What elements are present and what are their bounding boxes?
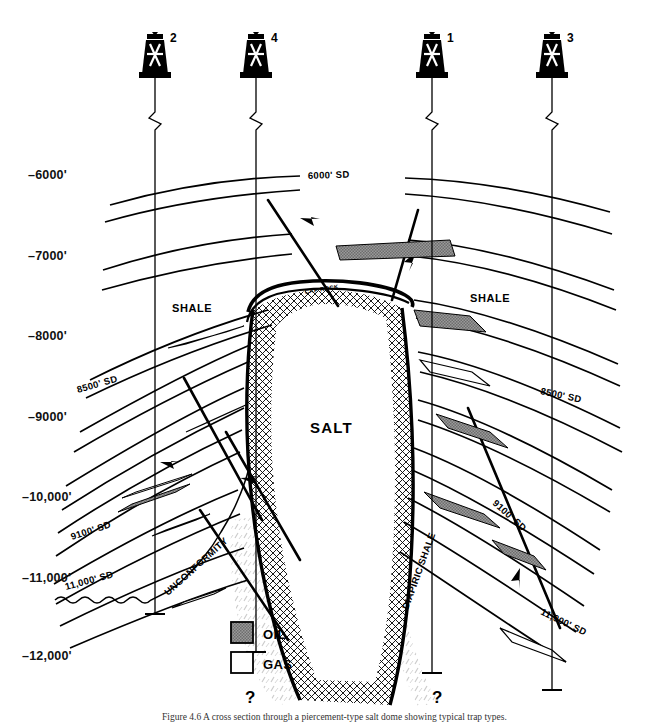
well-label-1: 1 [447,31,454,45]
label-salt: SALT [310,419,353,436]
legend-label-oil: OIL [263,627,286,642]
figure-caption: Figure 4.6 A cross section through a pie… [0,712,669,727]
legend-swatch-gas [231,652,253,673]
label-6000-sd: 6000' SD [308,169,350,181]
label-shale-left: SHALE [172,302,212,314]
depth-label-10000: –10,000' [22,490,72,504]
query-mark-left: ? [245,688,255,707]
depth-label-8000: –8000' [28,329,67,343]
depth-label-6000: –6000' [28,168,67,182]
label-shale-right: SHALE [470,292,510,304]
legend-swatch-oil [231,622,253,643]
legend-label-gas: GAS [263,657,292,672]
depth-label-7000: –7000' [28,249,67,263]
query-mark-right: ? [432,688,442,707]
depth-label-9000: –9000' [28,410,67,424]
salt-dome-cross-section-figure: 2 4 1 [0,0,669,727]
depth-label-12000: –12,000' [22,649,72,663]
well-label-4: 4 [271,31,278,45]
well-label-2: 2 [170,31,177,45]
well-label-3: 3 [567,31,574,45]
